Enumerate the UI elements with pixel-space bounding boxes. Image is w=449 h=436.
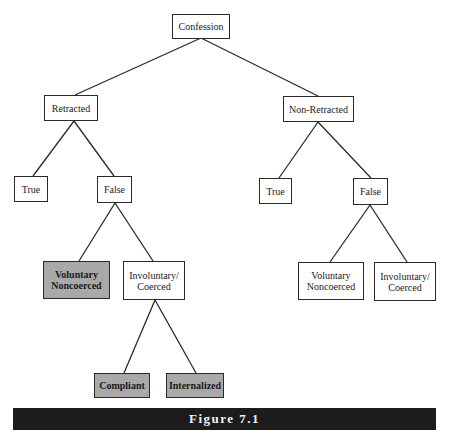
node-label: Involuntary/ Coerced <box>380 271 429 293</box>
node-label: Involuntary/ Coerced <box>129 270 178 292</box>
node-nonretracted-false: False <box>353 178 388 205</box>
node-compliant: Compliant <box>94 373 150 398</box>
node-confession: Confession <box>172 14 230 39</box>
node-label: Internalized <box>169 380 221 391</box>
node-label: Non-Retracted <box>289 104 348 115</box>
node-label: Voluntary Noncoerced <box>307 270 355 292</box>
node-internalized: Internalized <box>166 373 224 398</box>
node-retracted-true: True <box>14 176 48 202</box>
node-label: Voluntary Noncoerced <box>51 269 101 291</box>
node-label: Confession <box>179 21 224 32</box>
node-non-retracted: Non-Retracted <box>283 96 354 122</box>
node-nonretracted-voluntary-noncoerced: Voluntary Noncoerced <box>298 262 364 300</box>
figure-caption: Figure 7.1 <box>189 411 260 427</box>
tree-connectors <box>0 0 449 436</box>
node-nonretracted-true: True <box>259 178 292 204</box>
node-label: True <box>22 184 41 195</box>
node-label: Retracted <box>52 103 90 114</box>
node-label: False <box>360 186 381 197</box>
node-label: True <box>266 186 285 197</box>
node-retracted: Retracted <box>44 95 98 121</box>
node-retracted-false: False <box>97 176 132 203</box>
node-nonretracted-involuntary-coerced: Involuntary/ Coerced <box>374 262 436 301</box>
node-label: False <box>104 184 125 195</box>
node-label: Compliant <box>99 380 145 391</box>
figure-caption-bar: Figure 7.1 <box>13 408 436 430</box>
node-retracted-voluntary-noncoerced: Voluntary Noncoerced <box>43 261 110 299</box>
node-retracted-involuntary-coerced: Involuntary/ Coerced <box>123 261 185 300</box>
